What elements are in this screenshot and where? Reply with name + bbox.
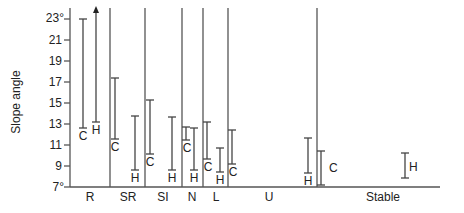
y-axis-label: Slope angle (9, 70, 23, 134)
bar-si-h (168, 117, 176, 170)
y-tick-15: 15 (49, 96, 63, 110)
bar-sr-h (131, 116, 139, 170)
y-tick-21: 21 (49, 33, 63, 47)
bar-u-h (304, 138, 312, 173)
label-sr-c: C (111, 140, 120, 154)
y-tick-17: 17 (49, 75, 63, 89)
x-axis-categories: R SR SI N L U Stable (86, 190, 401, 204)
bar-n-c (182, 127, 190, 140)
label-r-c: C (79, 129, 88, 143)
label-si-h: H (168, 171, 177, 185)
label-u-c: C (229, 165, 238, 179)
axes (64, 8, 440, 187)
label-sr-h: H (131, 171, 140, 185)
y-tick-7: 7° (53, 180, 65, 194)
label-l-h: H (216, 173, 225, 187)
category-u: U (265, 190, 274, 204)
slope-angle-range-chart: Slope angle 7° 9 11 13 15 17 19 21 23° (0, 0, 464, 213)
y-axis-ticks: 7° 9 11 13 15 17 19 21 23° (46, 11, 64, 194)
bar-r-h (92, 12, 100, 122)
y-tick-11: 11 (50, 138, 63, 152)
label-n-c: C (183, 141, 192, 155)
category-stable: Stable (366, 190, 400, 204)
label-si-c: C (146, 155, 155, 169)
label-stable-h: H (409, 160, 418, 174)
series-labels: C H C H C H C H C H C H C H (79, 123, 418, 188)
range-bars (79, 6, 409, 185)
category-n: N (188, 190, 197, 204)
label-u-h: H (304, 174, 313, 188)
y-tick-23: 23° (46, 11, 64, 25)
label-l-c: C (204, 160, 213, 174)
category-r: R (86, 190, 95, 204)
bar-stable-h (401, 153, 409, 178)
bar-r-c (79, 19, 87, 128)
category-sr: SR (120, 190, 137, 204)
arrow-up-icon (93, 6, 99, 13)
y-tick-19: 19 (49, 54, 63, 68)
bar-stable-c (317, 151, 325, 185)
label-r-h: H (92, 123, 101, 137)
label-stable-c: C (329, 161, 338, 175)
y-tick-13: 13 (49, 117, 63, 131)
bar-l-c (203, 122, 211, 159)
label-n-h: H (190, 171, 199, 185)
y-tick-9: 9 (55, 159, 62, 173)
bar-si-c (146, 100, 154, 154)
bar-sr-c (111, 78, 119, 139)
category-dividers (110, 8, 317, 187)
bar-l-h (216, 148, 224, 172)
bar-u-c (228, 130, 236, 164)
category-si: SI (157, 190, 168, 204)
category-l: L (213, 190, 220, 204)
